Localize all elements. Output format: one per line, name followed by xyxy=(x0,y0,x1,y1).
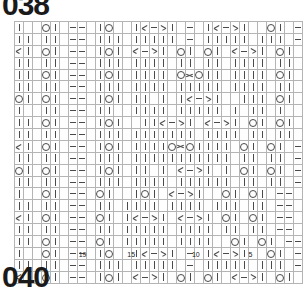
stitch-symbol-p xyxy=(294,177,302,188)
chart-cell xyxy=(240,259,249,271)
chart-cell xyxy=(222,81,231,93)
chart-cell xyxy=(60,176,69,188)
stitch-symbol-p xyxy=(69,93,77,104)
chart-cell xyxy=(51,57,60,69)
chart-cell xyxy=(177,105,186,117)
chart-row xyxy=(15,152,304,164)
chart-cell xyxy=(195,105,204,117)
stitch-symbol-o xyxy=(96,236,104,247)
chart-cell xyxy=(177,117,186,129)
chart-cell xyxy=(303,212,304,224)
stitch-symbol-k xyxy=(222,129,230,140)
stitch-symbol-ssk xyxy=(132,46,140,57)
stitch-symbol-k xyxy=(132,34,140,45)
stitch-symbol-k xyxy=(96,129,104,140)
chart-cell xyxy=(33,224,42,236)
stitch-symbol-k xyxy=(231,70,239,81)
chart-cell xyxy=(276,176,285,188)
chart-cell xyxy=(42,152,51,164)
chart-cell xyxy=(204,81,213,93)
chart-cell xyxy=(204,259,213,271)
chart-cell xyxy=(240,129,249,141)
chart-cell xyxy=(258,152,267,164)
stitch-symbol-k xyxy=(222,260,230,271)
chart-cell xyxy=(105,93,114,105)
stitch-symbol-e xyxy=(60,93,68,104)
stitch-symbol-e xyxy=(87,200,95,211)
chart-cell xyxy=(159,212,168,224)
stitch-symbol-e xyxy=(249,34,257,45)
stitch-symbol-p xyxy=(78,224,86,235)
chart-cell xyxy=(159,33,168,45)
chart-cell xyxy=(258,188,267,200)
chart-cell xyxy=(24,200,33,212)
stitch-symbol-k xyxy=(132,58,140,69)
stitch-symbol-e xyxy=(177,22,185,33)
stitch-symbol-e xyxy=(114,224,122,235)
stitch-symbol-k xyxy=(42,105,50,116)
chart-cell xyxy=(141,105,150,117)
stitch-symbol-k xyxy=(105,188,113,199)
chart-cell xyxy=(249,200,258,212)
stitch-symbol-k xyxy=(141,236,149,247)
chart-cell xyxy=(159,176,168,188)
chart-cell xyxy=(231,236,240,248)
chart-cell xyxy=(249,236,258,248)
row-number-label: 19 xyxy=(79,249,87,260)
chart-cell xyxy=(69,164,78,176)
stitch-symbol-k xyxy=(96,117,104,128)
chart-cell xyxy=(177,188,186,200)
stitch-symbol-p xyxy=(69,177,77,188)
stitch-symbol-k xyxy=(249,165,257,176)
stitch-symbol-ssk xyxy=(186,93,194,104)
chart-cell xyxy=(24,22,33,34)
chart-cell xyxy=(222,236,231,248)
chart-cell xyxy=(276,164,285,176)
stitch-symbol-p xyxy=(285,188,293,199)
stitch-symbol-e xyxy=(222,81,230,92)
stitch-symbol-o xyxy=(249,188,257,199)
stitch-symbol-p xyxy=(294,165,302,176)
stitch-symbol-e xyxy=(285,34,293,45)
stitch-symbol-k xyxy=(24,200,32,211)
chart-cell xyxy=(168,176,177,188)
stitch-symbol-e xyxy=(294,70,302,81)
stitch-symbol-k xyxy=(42,153,50,164)
stitch-symbol-o xyxy=(195,70,203,81)
chart-cell xyxy=(42,129,51,141)
stitch-symbol-k xyxy=(222,177,230,188)
stitch-symbol-k xyxy=(114,58,122,69)
stitch-symbol-k xyxy=(195,153,203,164)
chart-cell xyxy=(213,69,222,81)
chart-cell xyxy=(123,200,132,212)
stitch-symbol-e xyxy=(87,141,95,152)
chart-cell xyxy=(42,164,51,176)
chart-cell xyxy=(240,22,249,34)
chart-cell xyxy=(213,129,222,141)
stitch-symbol-k xyxy=(231,188,239,199)
chart-cell xyxy=(141,271,150,283)
chart-cell xyxy=(186,22,195,34)
chart-cell xyxy=(186,224,195,236)
chart-cell xyxy=(195,117,204,129)
stitch-symbol-k xyxy=(24,81,32,92)
stitch-symbol-k xyxy=(150,224,158,235)
stitch-symbol-k xyxy=(168,260,176,271)
chart-cell xyxy=(141,57,150,69)
stitch-symbol-e xyxy=(87,236,95,247)
chart-cell xyxy=(231,140,240,152)
chart-cell xyxy=(222,57,231,69)
chart-cell xyxy=(159,45,168,57)
stitch-symbol-k xyxy=(258,58,266,69)
stitch-symbol-o xyxy=(96,212,104,223)
stitch-symbol-k xyxy=(186,177,194,188)
stitch-symbol-k xyxy=(204,81,212,92)
chart-cell xyxy=(123,176,132,188)
stitch-symbol-e xyxy=(87,188,95,199)
stitch-symbol-e xyxy=(231,165,239,176)
chart-cell xyxy=(87,164,96,176)
stitch-symbol-e xyxy=(123,70,131,81)
chart-cell xyxy=(213,105,222,117)
chart-cell xyxy=(186,236,195,248)
stitch-symbol-o xyxy=(105,165,113,176)
